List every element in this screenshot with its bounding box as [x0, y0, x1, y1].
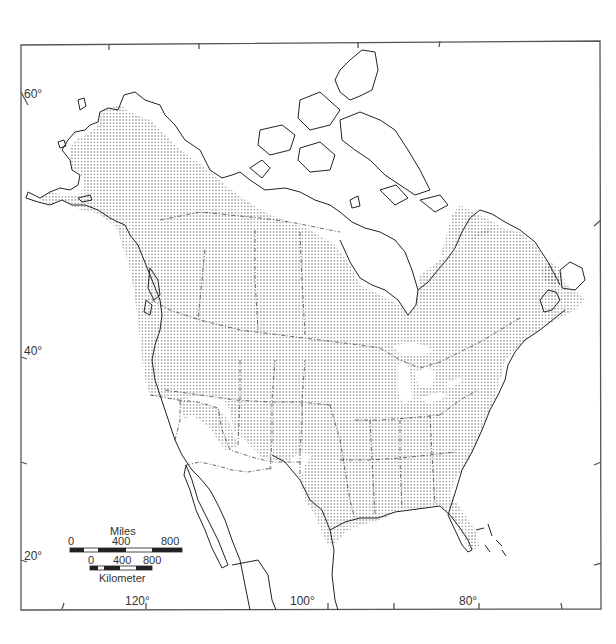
longitude-label-120: 120° — [125, 595, 150, 607]
range-map — [0, 0, 616, 644]
kilometer-scale-title: Kilometer — [99, 572, 145, 584]
miles-tick-400: 400 — [112, 535, 130, 547]
miles-scale — [70, 548, 182, 552]
miles-tick-0: 0 — [68, 535, 74, 547]
latitude-label-40: 40° — [24, 345, 42, 357]
kilometer-scale — [90, 566, 152, 570]
latitude-label-60: 60° — [24, 88, 42, 100]
km-tick-0: 0 — [88, 554, 94, 566]
longitude-label-100: 100° — [290, 595, 315, 607]
km-tick-400: 400 — [113, 554, 131, 566]
longitude-label-80: 80° — [459, 595, 477, 607]
km-tick-800: 800 — [143, 554, 161, 566]
latitude-label-20: 20° — [24, 550, 42, 562]
miles-tick-800: 800 — [161, 535, 179, 547]
